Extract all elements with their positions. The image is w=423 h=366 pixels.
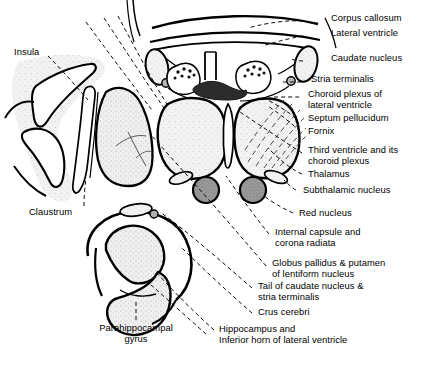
figure-canvas: Insula Claustrum Parahippocampal gyrus C… — [0, 0, 423, 366]
thalamus-right — [234, 98, 299, 178]
claustrum-and-external-capsule — [73, 86, 98, 192]
thalamus-group — [158, 98, 306, 179]
label-lateral-ventricle: Lateral ventricle — [331, 27, 398, 38]
thalamus-left — [158, 98, 227, 179]
label-septum-pellucidum: Septum pellucidum — [308, 112, 389, 123]
hippocampal-fissure — [95, 248, 102, 296]
lentiform-nucleus-group — [96, 88, 152, 186]
leader-corpus-callosum — [248, 21, 303, 28]
label-crus-cerebri: Crus cerebri — [258, 306, 310, 317]
label-tail-of-caudate-nucleus-and-stria-terminalis: Tail of caudate nucleus & stria terminal… — [258, 280, 363, 302]
red-nucleus-left — [193, 177, 219, 203]
label-stria-terminalis: Stria terminalis — [311, 73, 374, 84]
label-third-ventricle-and-choroid-plexus: Third ventricle and its choroid plexus — [308, 144, 398, 166]
label-internal-capsule-and-corona-radiata: Internal capsule and corona radiata — [275, 226, 360, 248]
label-corpus-callosum: Corpus callosum — [331, 12, 402, 23]
hippocampal-formation-group — [87, 202, 191, 335]
corpus-callosum-group — [127, 0, 336, 48]
stria-terminalis-right — [287, 77, 295, 85]
label-claustrum: Claustrum — [29, 206, 72, 217]
corpus-callosum-upper-border — [152, 16, 318, 28]
label-fornix: Fornix — [308, 125, 334, 136]
label-caudate-nucleus: Caudate nucleus — [331, 52, 402, 63]
label-globus-pallidus-and-putamen: Globus pallidus & putamen of lentiform n… — [272, 257, 385, 279]
red-nucleus-right — [240, 177, 266, 203]
label-parahippocampal-gyrus: Parahippocampal gyrus — [63, 322, 209, 344]
label-choroid-plexus-of-lateral-ventricle: Choroid plexus of lateral ventricle — [308, 88, 382, 110]
third-ventricle-cleft — [223, 104, 233, 168]
lentiform-nucleus-shape — [96, 88, 152, 186]
label-subthalamic-nucleus: Subthalamic nucleus — [303, 184, 390, 195]
leader-red-nucleus — [264, 196, 293, 213]
label-thalamus: Thalamus — [308, 168, 350, 179]
stria-terminalis-tail — [150, 210, 158, 218]
tail-of-caudate-nucleus — [119, 202, 152, 218]
label-red-nucleus: Red nucleus — [299, 207, 352, 218]
label-hippocampus-and-inferior-horn: Hippocampus and Inferior horn of lateral… — [219, 323, 347, 345]
lateral-ventricle-roof — [152, 42, 316, 50]
claustrum-shape — [73, 86, 95, 192]
label-insula: Insula — [14, 46, 39, 57]
cerebral-mantle-left — [133, 0, 140, 36]
choroid-plexus-group — [167, 61, 289, 101]
